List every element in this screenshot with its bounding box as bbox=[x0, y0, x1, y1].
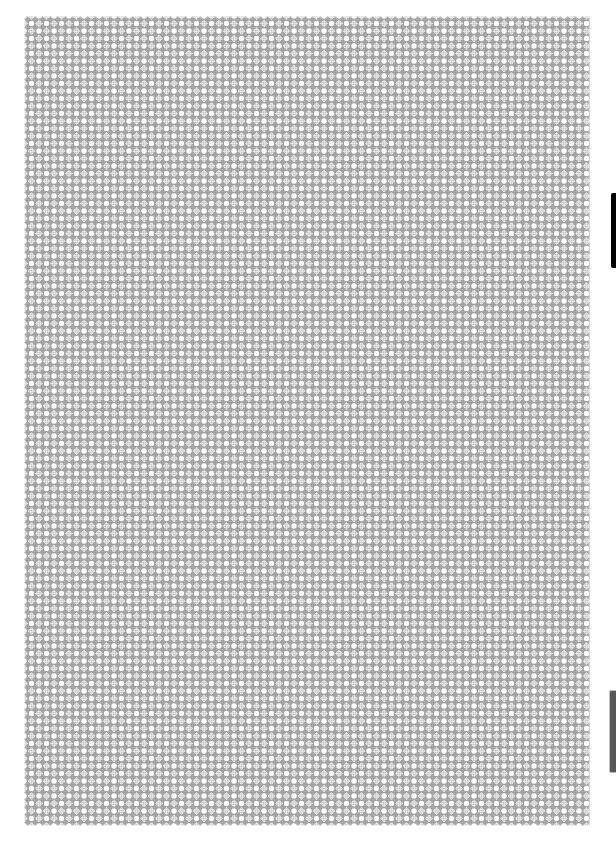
side-tab-bottom[interactable] bbox=[609, 690, 616, 773]
side-tab-top[interactable] bbox=[611, 193, 616, 268]
patterned-page bbox=[24, 16, 590, 826]
